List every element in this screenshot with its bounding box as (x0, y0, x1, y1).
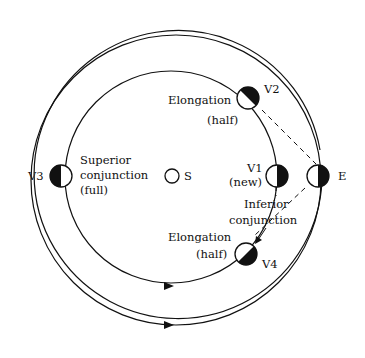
v2-phase: (half) (207, 113, 238, 127)
v2-position: Elongation (168, 93, 232, 107)
earth-orbit-arrow-icon (164, 321, 174, 329)
venus-phases-diagram: S V3 Superior conjunction (full) V1 (new… (0, 0, 365, 358)
sun-icon (165, 169, 179, 183)
v2-label: V2 (263, 82, 280, 96)
sun-label: S (184, 169, 192, 183)
v4-label: V4 (261, 257, 278, 271)
v4-planet-icon (235, 243, 257, 265)
v1-label: V1 (246, 161, 263, 175)
v2-planet-icon (237, 87, 259, 109)
v4-position: Elongation (168, 230, 232, 244)
earth-planet-icon (307, 165, 329, 187)
v4-phase: (half) (196, 247, 227, 261)
v1-planet-icon (266, 165, 288, 187)
earth-label: E (338, 169, 346, 183)
v1-position-line1: Inferior (244, 197, 289, 211)
v3-phase: (full) (80, 183, 108, 197)
sightline-e-v4 (254, 188, 305, 236)
v1-position-line2: conjunction (229, 213, 298, 227)
v3-position-line2: conjunction (80, 168, 149, 182)
v3-label: V3 (27, 169, 44, 183)
v3-position-line1: Superior (80, 153, 132, 167)
v1-phase: (new) (229, 175, 262, 189)
v3-planet-icon (50, 165, 72, 187)
sightline-e-v2 (262, 110, 316, 164)
